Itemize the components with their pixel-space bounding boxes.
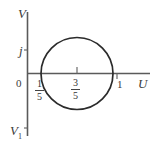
- fraction-three-fifths: 3 5: [71, 78, 80, 101]
- fraction-three-fifths-numerator: 3: [72, 78, 79, 88]
- figure-canvas: [0, 0, 158, 148]
- fraction-one-fifth: 1 5: [35, 79, 44, 102]
- v1-subscript: 1: [18, 132, 22, 141]
- tick-label-one: 1: [117, 79, 123, 90]
- origin-label: 0: [16, 78, 22, 89]
- fraction-three-fifths-denominator: 5: [72, 91, 79, 101]
- figure-container: V j 0 V1 1 U 1 5 3 5: [0, 0, 158, 148]
- imaginary-unit-label: j: [19, 44, 23, 57]
- v1-base: V: [10, 123, 18, 138]
- horizontal-axis-label: U: [138, 77, 147, 90]
- fraction-one-fifth-denominator: 5: [36, 92, 43, 102]
- vertical-axis-label: V: [18, 7, 26, 20]
- fraction-one-fifth-numerator: 1: [36, 79, 43, 89]
- vertical-negative-axis-label: V1: [10, 124, 22, 141]
